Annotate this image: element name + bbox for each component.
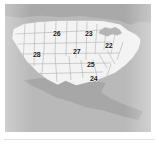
- map-label-23: 23: [85, 30, 92, 37]
- map-figure: 26 23 22 28 27 25 24: [0, 0, 159, 145]
- map-label-28: 28: [33, 51, 40, 58]
- map-label-24: 24: [90, 75, 97, 82]
- bottom-divider: [4, 139, 155, 140]
- map-label-27: 27: [73, 48, 80, 55]
- map-label-22: 22: [105, 42, 112, 49]
- map-plate: 26 23 22 28 27 25 24: [5, 4, 151, 132]
- map-label-25: 25: [87, 61, 94, 68]
- landmass-mexico: [19, 78, 143, 132]
- map-label-26: 26: [53, 30, 60, 37]
